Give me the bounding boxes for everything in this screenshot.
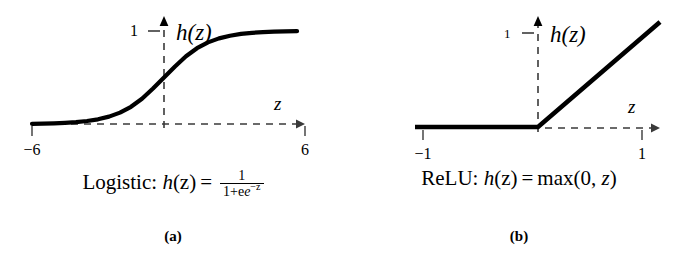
relu-x-axis-label: z xyxy=(627,96,636,117)
logistic-formula-arg: (z) xyxy=(173,170,196,194)
logistic-y-tick-label: 1 xyxy=(130,22,138,39)
relu-x-tick-label-min: −1 xyxy=(414,145,431,160)
logistic-plot: 1 −6 6 h(z) z xyxy=(0,0,346,160)
relu-formula-arg: (z) xyxy=(494,166,517,190)
logistic-formula-fraction: 1 1+ee−z xyxy=(220,168,264,199)
relu-y-axis-arrow xyxy=(534,16,543,26)
relu-subcaption: (b) xyxy=(346,228,692,245)
logistic-y-axis-label: h(z) xyxy=(176,20,212,45)
logistic-formula-func: h xyxy=(162,170,173,194)
logistic-x-axis-arrow xyxy=(296,120,305,129)
logistic-formula: Logistic: h(z)= 1 1+ee−z xyxy=(0,168,346,199)
logistic-fraction-denominator-base: 1+e xyxy=(223,184,244,199)
activation-functions-figure: 1 −6 6 h(z) z Logistic: h(z)= 1 1+ee−z (… xyxy=(0,0,692,272)
relu-formula-lead: ReLU: xyxy=(421,166,478,190)
relu-formula-expression-fn: max(0, xyxy=(537,166,596,190)
logistic-subcaption: (a) xyxy=(0,228,346,245)
relu-y-tick-label: 1 xyxy=(504,26,511,41)
panel-logistic: 1 −6 6 h(z) z Logistic: h(z)= 1 1+ee−z (… xyxy=(0,0,346,272)
relu-x-tick-label-max: 1 xyxy=(638,145,646,160)
logistic-formula-lead: Logistic: xyxy=(82,170,157,194)
logistic-y-axis-arrow xyxy=(160,16,169,26)
relu-y-axis-label: h(z) xyxy=(550,22,586,47)
relu-formula-expression-var: z xyxy=(602,166,610,190)
logistic-x-tick-label-max: 6 xyxy=(301,141,309,158)
relu-x-axis-arrow xyxy=(651,124,660,133)
logistic-formula-equals: = xyxy=(200,170,212,194)
relu-formula-func: h xyxy=(484,166,495,190)
logistic-fraction-denominator-exponent: −z xyxy=(250,181,260,192)
relu-formula-equals: = xyxy=(522,166,534,190)
relu-plot: 1 −1 1 h(z) z xyxy=(346,0,692,160)
logistic-x-axis-label: z xyxy=(273,93,282,114)
relu-formula-expression-close: ) xyxy=(610,166,617,190)
logistic-fraction-denominator: 1+ee−z xyxy=(220,183,264,199)
logistic-x-tick-label-min: −6 xyxy=(23,141,40,158)
relu-formula: ReLU: h(z)=max(0, z) xyxy=(346,168,692,189)
panel-relu: 1 −1 1 h(z) z ReLU: h(z)=max(0, z) (b) xyxy=(346,0,692,272)
